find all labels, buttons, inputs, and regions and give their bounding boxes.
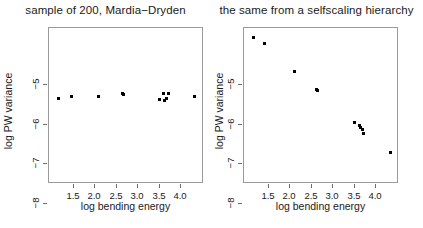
y-tick-minus7	[238, 163, 242, 164]
data-point	[316, 89, 319, 92]
x-tick-2-0	[94, 184, 95, 188]
y-tick-minus8	[43, 203, 47, 204]
y-axis-left: −5 −6 −7 −8	[48, 27, 49, 183]
y-ticklabel-minus6: −6	[30, 117, 41, 131]
x-axis-right: 1.5 2.0 2.5 3.0 3.5 4.0	[243, 183, 398, 184]
x-tick-3-5	[354, 184, 355, 188]
data-point	[361, 128, 364, 131]
data-point	[162, 92, 165, 95]
data-point	[165, 97, 168, 100]
data-point	[158, 98, 161, 101]
data-point	[193, 95, 196, 98]
y-tick-minus8	[238, 203, 242, 204]
y-axis-title-left: log PW variance	[2, 73, 14, 149]
y-ticklabel-minus7: −7	[225, 156, 236, 170]
data-point	[293, 70, 296, 73]
data-point	[167, 92, 170, 95]
y-tick-minus5	[43, 84, 47, 85]
data-point	[362, 132, 365, 135]
y-ticklabel-minus5: −5	[30, 77, 41, 91]
data-points-right	[244, 28, 397, 182]
x-tick-2-0	[289, 184, 290, 188]
data-point	[70, 95, 73, 98]
panel-mardia-dryden: sample of 200, Mardia−Dryden −5 −6 −7 −8…	[0, 0, 211, 228]
x-tick-3-0	[332, 184, 333, 188]
y-ticklabel-minus5: −5	[225, 77, 236, 91]
x-tick-2-5	[116, 184, 117, 188]
data-points-left	[49, 28, 202, 182]
y-axis-title-right: log PW variance	[213, 73, 225, 149]
data-point	[389, 151, 392, 154]
x-axis-title-right: log bending energy	[243, 200, 398, 212]
x-tick-4-0	[180, 184, 181, 188]
x-tick-4-0	[375, 184, 376, 188]
y-ticklabel-minus6: −6	[225, 117, 236, 131]
panel-title-right: the same from a selfscaling hierarchy	[211, 3, 422, 17]
x-tick-2-5	[311, 184, 312, 188]
scatter-plot-figure: sample of 200, Mardia−Dryden −5 −6 −7 −8…	[0, 0, 423, 228]
data-point	[252, 36, 255, 39]
y-tick-minus6	[238, 124, 242, 125]
data-point	[57, 97, 60, 100]
x-tick-3-0	[137, 184, 138, 188]
data-point	[122, 93, 125, 96]
data-point	[97, 95, 100, 98]
plot-frame-right	[243, 27, 398, 183]
x-axis-title-left: log bending energy	[48, 200, 203, 212]
y-tick-minus5	[238, 84, 242, 85]
panel-selfscaling-hierarchy: the same from a selfscaling hierarchy −5…	[211, 0, 422, 228]
x-tick-1-5	[268, 184, 269, 188]
y-tick-minus6	[43, 124, 47, 125]
y-ticklabel-minus8: −8	[225, 196, 236, 210]
y-tick-minus7	[43, 163, 47, 164]
plot-frame-left	[48, 27, 203, 183]
data-point	[263, 42, 266, 45]
y-axis-right: −5 −6 −7 −8	[243, 27, 244, 183]
y-ticklabel-minus7: −7	[30, 156, 41, 170]
x-tick-3-5	[159, 184, 160, 188]
panel-title-left: sample of 200, Mardia−Dryden	[0, 3, 211, 17]
y-ticklabel-minus8: −8	[30, 196, 41, 210]
x-axis-left: 1.5 2.0 2.5 3.0 3.5 4.0	[48, 183, 203, 184]
data-point	[353, 121, 356, 124]
x-tick-1-5	[73, 184, 74, 188]
